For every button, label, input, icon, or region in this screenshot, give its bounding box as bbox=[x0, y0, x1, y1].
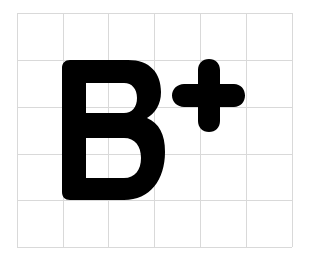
plus-glyph bbox=[172, 59, 245, 132]
letter-b-icon bbox=[62, 60, 165, 200]
letter-b-glyph bbox=[62, 60, 165, 200]
logo-canvas bbox=[0, 0, 311, 264]
plus-icon bbox=[172, 59, 245, 132]
